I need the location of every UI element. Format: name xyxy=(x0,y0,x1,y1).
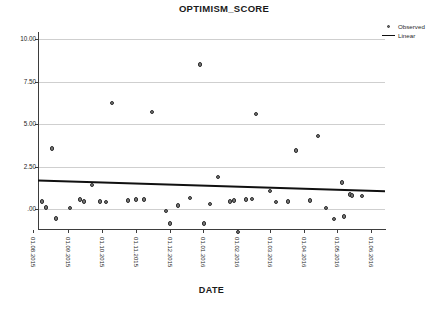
x-tick-label: 01.06.2016 xyxy=(368,237,374,267)
x-tick-mark xyxy=(33,230,34,233)
y-tick-label: .00 xyxy=(2,205,36,212)
x-tick-label: 01.05.2016 xyxy=(334,237,340,267)
legend-item-linear: Linear xyxy=(381,31,447,40)
data-point xyxy=(50,146,54,150)
y-tick-label: 5.00 xyxy=(2,120,36,127)
legend-label-observed: Observed xyxy=(396,22,425,31)
x-tick-mark xyxy=(270,230,271,233)
x-tick-mark xyxy=(371,230,372,233)
y-tick-label: 7.50 xyxy=(2,78,36,85)
data-point xyxy=(54,216,58,220)
data-point xyxy=(110,101,114,105)
data-point xyxy=(68,206,72,210)
data-point xyxy=(244,197,248,201)
data-point xyxy=(208,202,212,206)
x-tick-label: 01.09.2015 xyxy=(65,237,71,267)
data-point xyxy=(176,203,180,207)
x-tick-label: 01.01.2016 xyxy=(200,237,206,267)
chart-title: OPTIMISM_SCORE xyxy=(0,3,448,14)
data-point xyxy=(168,221,172,225)
x-tick-label: 01.10.2015 xyxy=(99,237,105,267)
chart-figure: OPTIMISM_SCORE Observed Linear 10.007.50… xyxy=(0,0,448,309)
data-point xyxy=(324,206,328,210)
x-tick-mark xyxy=(68,230,69,233)
x-tick-label: 01.04.2016 xyxy=(301,237,307,267)
data-point xyxy=(232,198,236,202)
x-tick-mark xyxy=(136,230,137,233)
data-point xyxy=(350,193,354,197)
data-point xyxy=(90,183,94,187)
x-tick-label: 01.03.2016 xyxy=(267,237,273,267)
chart-legend: Observed Linear xyxy=(381,22,447,40)
data-point xyxy=(216,175,220,179)
plot-area xyxy=(38,32,385,229)
legend-label-linear: Linear xyxy=(396,31,415,40)
data-point xyxy=(286,199,290,203)
data-point xyxy=(40,199,44,203)
x-tick-label: 01.11.2015 xyxy=(133,237,139,267)
data-point xyxy=(268,189,272,193)
data-point xyxy=(340,180,344,184)
data-point xyxy=(308,198,312,202)
x-tick-mark xyxy=(203,230,204,233)
data-point xyxy=(198,62,202,66)
x-axis-title: DATE xyxy=(38,285,385,295)
x-tick-mark xyxy=(337,230,338,233)
x-tick-label: 01.02.2016 xyxy=(234,237,240,267)
x-tick-label: 01.12.2015 xyxy=(167,237,173,267)
data-point xyxy=(294,148,298,152)
data-point xyxy=(104,200,108,204)
data-point xyxy=(254,112,258,116)
data-point xyxy=(332,217,336,221)
x-axis-line xyxy=(38,229,386,230)
data-point xyxy=(236,230,240,234)
x-tick-mark xyxy=(304,230,305,233)
data-point xyxy=(150,110,154,114)
legend-item-observed: Observed xyxy=(381,22,447,31)
data-point xyxy=(316,134,320,138)
y-tick-label: 2.50 xyxy=(2,163,36,170)
x-tick-mark xyxy=(170,230,171,233)
data-point xyxy=(342,214,346,218)
data-point xyxy=(202,221,206,225)
data-point xyxy=(44,205,48,209)
y-tick-label: 10.00 xyxy=(2,35,36,42)
data-point xyxy=(126,198,130,202)
data-point xyxy=(142,197,146,201)
x-tick-label: 01.08.2015 xyxy=(30,237,36,267)
data-point xyxy=(98,199,102,203)
data-point xyxy=(82,199,86,203)
data-point xyxy=(360,194,364,198)
x-tick-mark xyxy=(102,230,103,233)
data-point xyxy=(134,197,138,201)
observed-marker-icon xyxy=(381,25,396,29)
data-point xyxy=(250,197,254,201)
data-point xyxy=(274,200,278,204)
data-point xyxy=(164,209,168,213)
data-point xyxy=(188,196,192,200)
